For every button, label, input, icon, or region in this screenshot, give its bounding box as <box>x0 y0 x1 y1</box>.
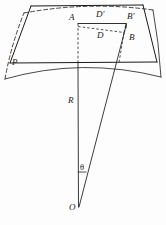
slant-ray-to-o <box>79 24 127 207</box>
label-point-b-prime: B' <box>127 12 134 21</box>
surface-right-edge <box>153 10 161 77</box>
label-point-d-prime: D' <box>96 10 104 19</box>
label-point-b: B <box>129 33 135 42</box>
patch-rectangle-group <box>78 24 126 29</box>
radius-group <box>78 24 127 207</box>
label-angle-theta: θ <box>80 163 84 172</box>
plane-top-edge <box>31 5 143 6</box>
plane-right-edge <box>143 5 157 62</box>
surface-left-edge <box>5 13 24 79</box>
plane-bottom-edge <box>10 62 157 63</box>
label-plane-p: P <box>12 58 18 67</box>
label-point-a: A <box>69 13 75 22</box>
geometry-diagram-svg <box>0 0 166 225</box>
radius-line-r <box>78 63 79 207</box>
label-center-o: O <box>69 203 76 212</box>
surface-lower-arc <box>5 67 161 79</box>
figure-container: P A D' B' D B R θ O <box>0 0 166 225</box>
label-point-d: D <box>97 31 104 40</box>
plane-left-edge <box>10 6 31 63</box>
curved-surface-group <box>5 6 161 79</box>
label-radius-r: R <box>68 96 74 105</box>
